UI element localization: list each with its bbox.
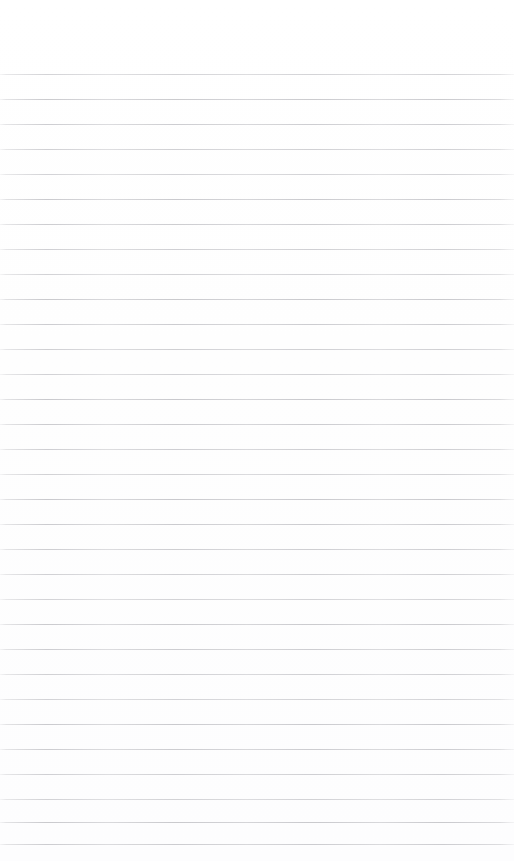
lined-paper-page — [0, 0, 514, 861]
writing-area[interactable] — [0, 0, 514, 861]
